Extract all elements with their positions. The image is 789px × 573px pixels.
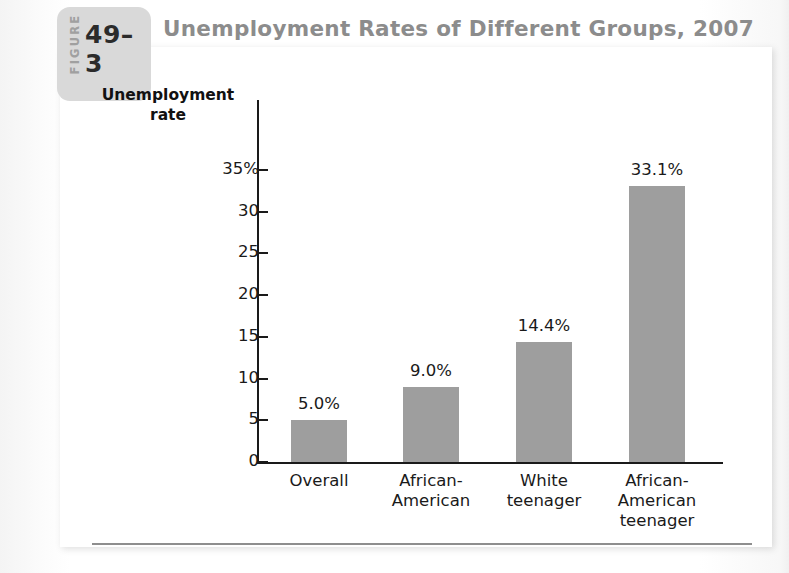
y-axis-tick-label: 15 xyxy=(189,326,259,345)
bar xyxy=(403,387,459,462)
x-axis-category-line: Overall xyxy=(260,471,378,491)
page-title: Unemployment Rates of Different Groups, … xyxy=(163,16,754,41)
y-axis-tick xyxy=(259,419,268,421)
y-axis-tick-label: 0 xyxy=(189,451,259,470)
y-axis-tick-label: 25 xyxy=(189,242,259,261)
y-axis-title: Unemploymentrate xyxy=(88,86,248,126)
x-axis-category-label: African-Americanteenager xyxy=(598,471,716,531)
bar xyxy=(629,186,685,462)
bar-value-label: 5.0% xyxy=(264,394,374,413)
figure-page: FIGURE 49–3 Unemployment Rates of Differ… xyxy=(0,0,789,573)
x-axis-category-line: American xyxy=(372,491,490,511)
bar-value-label: 14.4% xyxy=(489,316,599,335)
x-axis-category-label: Overall xyxy=(260,471,378,491)
figure-number: 49–3 xyxy=(85,20,151,78)
y-axis-tick-label: 5 xyxy=(189,409,259,428)
x-axis-category-label: African-American xyxy=(372,471,490,511)
bar xyxy=(291,420,347,462)
x-axis-category-line: African- xyxy=(372,471,490,491)
y-axis-title-line: Unemployment xyxy=(88,86,248,106)
x-axis-category-line: American xyxy=(598,491,716,511)
y-axis-tick-label: 30 xyxy=(189,201,259,220)
x-axis-line xyxy=(257,462,723,464)
x-axis-category-label: Whiteteenager xyxy=(485,471,603,511)
y-axis-tick xyxy=(259,252,268,254)
x-axis-category-line: White xyxy=(485,471,603,491)
y-axis-tick-label: 35% xyxy=(189,159,259,178)
y-axis-tick xyxy=(259,378,268,380)
y-axis-tick xyxy=(259,211,268,213)
bar-value-label: 33.1% xyxy=(602,160,712,179)
x-axis-category-line: teenager xyxy=(485,491,603,511)
bar-value-label: 9.0% xyxy=(376,361,486,380)
bar xyxy=(516,342,572,462)
figure-label: FIGURE xyxy=(68,6,82,82)
y-axis-title-line: rate xyxy=(88,106,248,126)
y-axis-tick-label: 10 xyxy=(189,368,259,387)
y-axis-tick xyxy=(259,336,268,338)
y-axis-tick-label: 20 xyxy=(189,284,259,303)
footer-rule xyxy=(92,543,752,545)
y-axis-tick xyxy=(259,169,268,171)
x-axis-category-line: teenager xyxy=(598,511,716,531)
y-axis-tick xyxy=(259,294,268,296)
y-axis-tick xyxy=(259,461,268,463)
x-axis-category-line: African- xyxy=(598,471,716,491)
